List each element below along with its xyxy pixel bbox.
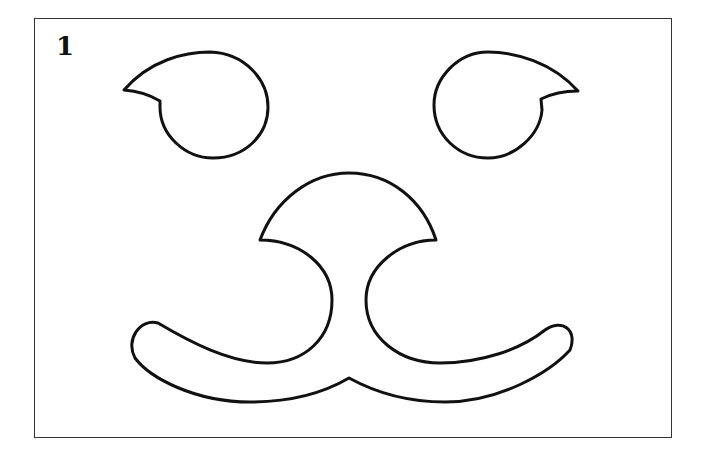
cat-face-drawing xyxy=(0,0,706,454)
right-eye-shape xyxy=(434,52,578,158)
left-eye-shape xyxy=(124,52,268,158)
nose-mouth-shape xyxy=(132,173,572,402)
